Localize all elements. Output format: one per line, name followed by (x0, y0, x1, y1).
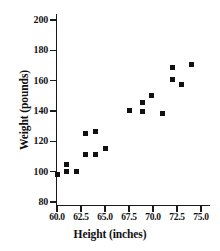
x-axis-title: Height (inches) (0, 228, 220, 240)
data-point (189, 62, 194, 67)
y-axis-tick (50, 201, 56, 202)
data-point (149, 93, 154, 98)
data-point (179, 82, 184, 87)
y-axis-tick (50, 110, 56, 111)
data-point (170, 65, 175, 70)
data-point (93, 152, 98, 157)
y-axis-tick-label: 200 (8, 15, 48, 25)
data-point (64, 162, 69, 167)
y-axis-tick (50, 19, 56, 20)
y-axis-tick (50, 80, 56, 81)
scatter-chart: 80100120140160180200 60.062.565.067.570.… (0, 0, 220, 251)
data-point (103, 146, 108, 151)
data-point (83, 152, 88, 157)
data-point (160, 111, 165, 116)
data-point (140, 100, 145, 105)
y-axis-tick (50, 141, 56, 142)
data-point (93, 129, 98, 134)
x-axis-line (56, 205, 210, 206)
y-axis-tick-label: 80 (8, 197, 48, 207)
data-point (140, 109, 145, 114)
data-point (55, 172, 60, 177)
data-point (170, 77, 175, 82)
plot-area (57, 14, 207, 202)
data-point (83, 131, 88, 136)
x-axis-tick-label: 75.0 (181, 213, 220, 223)
y-axis-title: Weight (pounds) (18, 30, 30, 190)
data-point (127, 108, 132, 113)
y-axis-tick (50, 50, 56, 51)
data-point (64, 169, 69, 174)
data-point (74, 169, 79, 174)
